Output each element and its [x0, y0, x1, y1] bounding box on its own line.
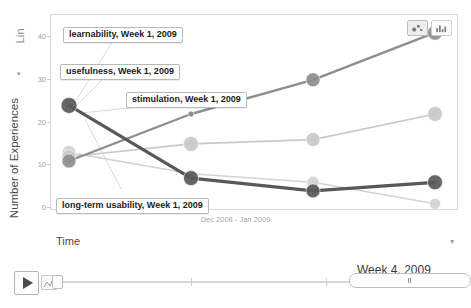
plot-svg [51, 15, 458, 210]
series-line [69, 152, 435, 203]
annotation-learnability[interactable]: learnability, Week 1, 2009 [63, 27, 183, 43]
bar-chart-icon [435, 23, 448, 33]
data-bubble[interactable] [184, 136, 199, 151]
play-icon [23, 277, 33, 289]
bubble-chart-button[interactable] [407, 20, 428, 36]
y-axis-scale-caret-icon[interactable]: ▾ [17, 70, 21, 78]
data-bubble[interactable] [430, 198, 441, 209]
annotation-long-term-usability[interactable]: long-term usability, Week 1, 2009 [56, 198, 209, 214]
series-line [69, 114, 435, 157]
data-bubble[interactable] [428, 175, 443, 190]
data-bubble[interactable] [62, 154, 76, 168]
range-handle-grip-icon [408, 278, 412, 283]
data-bubble[interactable] [306, 184, 320, 198]
data-bubble[interactable] [188, 111, 194, 117]
bubble-chart-icon [411, 23, 424, 33]
time-slider-tick [191, 278, 192, 286]
y-axis-tick-label: 0 [22, 203, 46, 212]
data-bubble[interactable] [61, 97, 77, 113]
annotation-usefulness[interactable]: usefulness, Week 1, 2009 [60, 64, 180, 80]
time-range-handle[interactable] [349, 273, 471, 288]
motion-chart-app: Lin ▾ Number of Experiences 010203040 Ex… [0, 0, 471, 308]
bar-chart-button[interactable] [431, 20, 452, 36]
data-bubble[interactable] [184, 171, 199, 186]
y-axis-title: Number of Experiences [8, 98, 20, 218]
data-bubble[interactable] [428, 107, 443, 122]
play-button[interactable] [14, 271, 39, 295]
chart-type-toggle-group[interactable] [407, 20, 452, 36]
time-panel: Time ▾ [50, 232, 458, 256]
y-axis-tick-label: 20 [22, 117, 46, 126]
series-learnability[interactable] [62, 25, 443, 168]
plot-area[interactable] [50, 14, 458, 210]
y-axis-tick-label: 40 [22, 32, 46, 41]
y-axis-tick-label: 10 [22, 160, 46, 169]
annotation-stimulation[interactable]: stimulation, Week 1, 2009 [126, 92, 247, 108]
time-slider-left-thumb[interactable] [52, 275, 63, 289]
playback-bar: Week 4, 2009 [8, 268, 463, 298]
time-slider-tick [326, 278, 327, 286]
data-bubble[interactable] [306, 133, 320, 147]
time-panel-caret-icon[interactable]: ▾ [450, 237, 454, 246]
x-axis-caption: Dec 2008 - Jan 2009 [0, 215, 471, 224]
time-panel-label: Time [56, 235, 80, 247]
data-bubble[interactable] [306, 73, 320, 87]
y-axis-tick-label: 30 [22, 74, 46, 83]
